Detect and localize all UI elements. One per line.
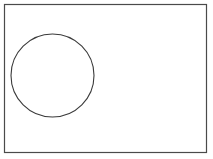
canvas-background bbox=[0, 0, 213, 159]
figure-drawing bbox=[0, 0, 213, 159]
figure-canvas bbox=[0, 0, 213, 159]
